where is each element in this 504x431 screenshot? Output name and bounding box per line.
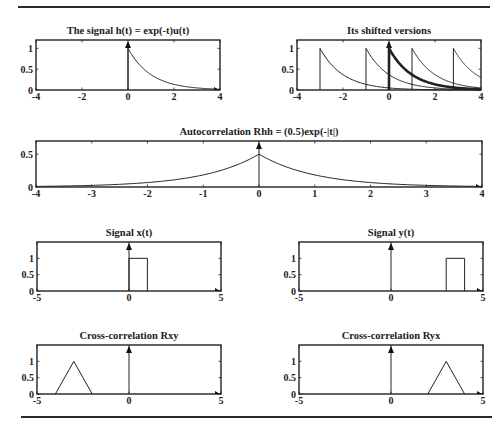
x-tick-label: 0 <box>126 91 131 102</box>
y-tick-label: 0 <box>28 85 33 96</box>
x-tick-label: -2 <box>143 188 151 199</box>
plot-rxy: Cross-correlation Rxy-50500.51 <box>22 330 224 406</box>
x-tick-label: 2 <box>368 188 373 199</box>
series-h-t- <box>389 48 481 90</box>
y-tick-label: 0 <box>29 286 34 297</box>
x-tick-label: -5 <box>295 292 303 303</box>
y-tick-label: 1 <box>289 43 294 54</box>
x-tick-label: -3 <box>88 188 96 199</box>
x-tick-label: -4 <box>32 91 40 102</box>
x-tick-label: -5 <box>295 395 303 406</box>
y-tick-label: 0.5 <box>22 372 35 383</box>
y-tick-label: 1 <box>291 356 296 367</box>
x-tick-label: 5 <box>481 292 486 303</box>
arrow-up-icon <box>126 346 132 353</box>
y-tick-label: 0.5 <box>284 269 297 280</box>
series-ryx-t- <box>428 361 465 394</box>
x-tick-label: 5 <box>219 395 224 406</box>
x-tick-label: 5 <box>219 292 224 303</box>
x-tick-label: 0 <box>387 91 392 102</box>
x-tick-label: -4 <box>293 91 301 102</box>
plot-rhh: Autocorrelation Rhh = (0.5)exp(-|t|)-4-3… <box>21 126 485 199</box>
y-tick-label: 1 <box>29 356 34 367</box>
series-h-t- <box>128 48 220 90</box>
x-tick-label: 2 <box>433 91 438 102</box>
plot-shifted: Its shifted versions-4-202400.51 <box>282 25 484 102</box>
y-tick-label: 1 <box>29 253 34 264</box>
y-tick-label: 0.5 <box>22 269 35 280</box>
plot-ryx: Cross-correlation Ryx-50500.51 <box>284 330 486 406</box>
x-tick-label: -1 <box>199 188 207 199</box>
plot-title: Signal x(t) <box>106 227 153 239</box>
arrow-up-icon <box>256 142 262 149</box>
plot-title: Its shifted versions <box>347 25 431 36</box>
y-tick-label: 1 <box>28 43 33 54</box>
x-tick-label: -4 <box>32 188 40 199</box>
x-tick-label: 0 <box>257 188 262 199</box>
x-tick-label: 4 <box>479 91 484 102</box>
plot-title: The signal h(t) = exp(-t)u(t) <box>67 25 190 37</box>
arrow-up-icon <box>388 243 394 250</box>
x-tick-label: -5 <box>33 292 41 303</box>
x-tick-label: 2 <box>172 91 177 102</box>
x-tick-label: 0 <box>127 395 132 406</box>
y-tick-label: 0.5 <box>21 64 34 75</box>
y-tick-label: 0 <box>29 389 34 400</box>
series-rxy-t- <box>55 361 92 394</box>
plot-h: The signal h(t) = exp(-t)u(t)-4-202400.5… <box>21 25 223 102</box>
y-tick-label: 1 <box>291 253 296 264</box>
x-tick-label: 4 <box>218 91 223 102</box>
x-tick-label: -2 <box>78 91 86 102</box>
figure-canvas: The signal h(t) = exp(-t)u(t)-4-202400.5… <box>0 0 504 431</box>
x-tick-label: -2 <box>339 91 347 102</box>
arrow-up-icon <box>388 346 394 353</box>
series-x-t- <box>129 258 147 291</box>
y-tick-label: 0 <box>291 286 296 297</box>
x-tick-label: 0 <box>389 292 394 303</box>
series-y-t- <box>446 258 464 291</box>
arrow-up-icon <box>125 41 131 48</box>
y-tick-label: 0 <box>28 182 33 193</box>
x-tick-label: 0 <box>127 292 132 303</box>
y-tick-label: 0.5 <box>21 149 34 160</box>
x-tick-label: -5 <box>33 395 41 406</box>
plot-title: Cross-correlation Ryx <box>342 330 441 341</box>
plot-title: Autocorrelation Rhh = (0.5)exp(-|t|) <box>179 126 339 138</box>
y-tick-label: 0 <box>289 85 294 96</box>
x-tick-label: 5 <box>481 395 486 406</box>
x-tick-label: 0 <box>389 395 394 406</box>
series-h-t-1- <box>412 48 481 90</box>
x-tick-label: 3 <box>424 188 429 199</box>
plot-y: Signal y(t)-50500.51 <box>284 227 486 303</box>
series-h-t-1- <box>366 48 481 90</box>
plot-title: Signal y(t) <box>368 227 415 239</box>
plot-title: Cross-correlation Rxy <box>79 330 179 341</box>
plot-x: Signal x(t)-50500.51 <box>22 227 224 303</box>
y-tick-label: 0 <box>291 389 296 400</box>
x-tick-label: 1 <box>312 188 317 199</box>
x-tick-label: 4 <box>480 188 485 199</box>
arrow-up-icon <box>126 243 132 250</box>
y-tick-label: 0.5 <box>284 372 297 383</box>
y-tick-label: 0.5 <box>282 64 295 75</box>
